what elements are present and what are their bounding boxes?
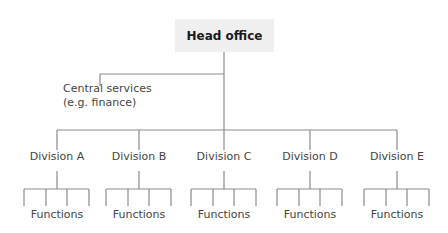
division-c-label: Division C [179,150,269,163]
division-e-label: Division E [352,150,442,163]
division-e-functions: Functions [352,208,442,221]
division-a-functions: Functions [12,208,102,221]
division-b-label: Division B [94,150,184,163]
central-services-node: Central services (e.g. finance) [63,82,152,110]
head-office-node: Head office [175,19,274,52]
division-d-functions: Functions [265,208,355,221]
head-office-label: Head office [187,29,263,43]
central-services-label: Central services [63,82,152,96]
division-d-label: Division D [265,150,355,163]
division-a-label: Division A [12,150,102,163]
division-b-functions: Functions [94,208,184,221]
central-services-example: (e.g. finance) [63,96,152,110]
division-c-functions: Functions [179,208,269,221]
